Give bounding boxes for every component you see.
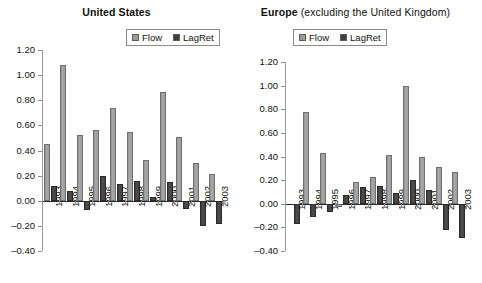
y-axis-label: 1.00 [17, 70, 36, 80]
legend-label-flow: Flow [142, 32, 162, 43]
y-axis-label: 1.20 [17, 45, 36, 55]
bar-flow [419, 157, 425, 204]
bar-flow [436, 167, 442, 204]
legend-item-flow[interactable]: Flow [299, 32, 329, 43]
bar-flow [353, 182, 359, 204]
x-axis-tick [207, 201, 208, 205]
y-axis-label: 1.00 [260, 81, 279, 91]
y-axis-label: 0.80 [260, 105, 279, 115]
legend-label-lagret: LagRet [183, 32, 214, 43]
bar-flow [44, 144, 50, 201]
square-swatch-icon [173, 34, 180, 41]
bar-flow [110, 108, 116, 201]
bar-flow [77, 135, 83, 200]
chart-legend-europe: Flow LagRet [293, 29, 387, 46]
x-axis-tick [75, 201, 76, 205]
y-axis-label: 0.20 [260, 175, 279, 185]
y-axis-label: 0.20 [17, 171, 36, 181]
bar-flow [160, 92, 166, 201]
x-axis-tick [59, 201, 60, 205]
y-axis-tick [281, 180, 285, 181]
legend-item-lagret[interactable]: LagRet [173, 32, 214, 43]
x-axis-tick [401, 204, 402, 208]
page-title-europe: Europe (excluding the United Kingdom) [235, 6, 476, 19]
bar-flow [127, 132, 133, 201]
x-axis-tick [318, 204, 319, 208]
chart-panel-united-states: United States Flow LagRet 1.201.000.800.… [0, 0, 241, 283]
y-axis-label: –0.40 [254, 246, 278, 256]
x-axis-tick [285, 204, 286, 208]
legend-label-flow: Flow [309, 32, 329, 43]
x-axis-tick [223, 201, 224, 205]
x-axis-tick [141, 201, 142, 205]
legend-item-lagret[interactable]: LagRet [340, 32, 381, 43]
y-axis-tick [38, 125, 42, 126]
y-axis-label: 1.20 [260, 57, 279, 67]
x-axis-tick [158, 201, 159, 205]
y-axis-label: 0.40 [17, 146, 36, 156]
square-swatch-icon [299, 34, 306, 41]
y-axis-tick [38, 151, 42, 152]
chart-title-strong: United States [82, 6, 150, 18]
y-axis-tick [281, 227, 285, 228]
bar-flow [60, 65, 66, 201]
chart-legend-united-states: Flow LagRet [126, 29, 220, 46]
y-axis-tick [281, 62, 285, 63]
bar-flow [452, 172, 458, 203]
bar-flow [303, 112, 309, 204]
bar-flow [370, 177, 376, 204]
y-axis-tick [38, 251, 42, 252]
x-axis-tick [42, 201, 43, 205]
x-axis-tick [466, 204, 467, 208]
y-axis-tick [281, 86, 285, 87]
bar-flow [336, 204, 342, 207]
chart-panel-europe: Europe (excluding the United Kingdom) Fl… [241, 0, 482, 283]
x-axis-tick [351, 204, 352, 208]
x-axis-tick [384, 204, 385, 208]
x-axis-tick [92, 201, 93, 205]
y-axis-tick [281, 251, 285, 252]
y-axis-label: 0.40 [260, 152, 279, 162]
bar-flow [143, 160, 149, 201]
x-axis-label-2003: 2003 [220, 186, 230, 207]
y-axis-tick [38, 226, 42, 227]
y-axis-label: 0.00 [17, 196, 36, 206]
y-axis-tick [281, 133, 285, 134]
y-axis-tick [281, 157, 285, 158]
x-axis-label-2003: 2003 [463, 189, 473, 210]
bar-flow [209, 174, 215, 200]
y-axis-label: –0.20 [254, 223, 278, 233]
y-axis-label: –0.20 [11, 221, 35, 231]
y-axis-label: 0.00 [260, 199, 279, 209]
legend-item-flow[interactable]: Flow [132, 32, 162, 43]
chart-title-strong: Europe [261, 6, 298, 18]
plot-area-united-states: 1.201.000.800.600.400.200.00–0.20–0.4019… [42, 50, 224, 251]
x-axis-tick [417, 204, 418, 208]
legend-label-lagret: LagRet [350, 32, 381, 43]
y-axis-label: 0.60 [260, 128, 279, 138]
bar-flow [386, 155, 392, 203]
x-axis-tick [108, 201, 109, 205]
y-axis-tick [38, 100, 42, 101]
x-axis-tick [335, 204, 336, 208]
y-axis-line [285, 62, 286, 251]
bar-flow [403, 86, 409, 204]
bar-flow [93, 130, 99, 200]
y-axis-label: –0.40 [11, 246, 35, 256]
y-axis-tick [38, 50, 42, 51]
x-axis-tick [434, 204, 435, 208]
plot-area-europe: 1.201.000.800.600.400.200.00–0.20–0.4019… [285, 62, 467, 251]
square-swatch-icon [132, 34, 139, 41]
x-axis-tick [191, 201, 192, 205]
bar-flow [176, 137, 182, 201]
y-axis-tick [281, 109, 285, 110]
page-title-united-states: United States [0, 6, 237, 19]
y-axis-tick [38, 75, 42, 76]
x-axis-tick [302, 204, 303, 208]
chart-title-regular: (excluding the United Kingdom) [298, 6, 451, 18]
y-axis-label: 0.60 [17, 121, 36, 131]
square-swatch-icon [340, 34, 347, 41]
x-axis-tick [174, 201, 175, 205]
x-axis-tick [125, 201, 126, 205]
y-axis-label: 0.80 [17, 96, 36, 106]
